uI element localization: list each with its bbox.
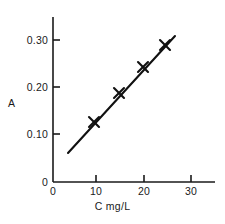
x-tick-label-30: 30 [181,185,201,197]
y-tick-label-020: 0.20 [8,81,48,93]
data-point-marker [160,40,170,50]
y-tick-label-010: 0.10 [8,128,48,140]
calibration-curve-chart: 0.30 0.20 0.10 0 0 10 20 30 A C mg/L [0,0,225,224]
y-axis-title: A [8,97,15,109]
y-tick-label-0: 0 [8,176,48,188]
x-tick-label-10: 10 [86,185,106,197]
y-tick-label-030: 0.30 [8,34,48,46]
x-tick-label-20: 20 [134,185,154,197]
x-axis-title: C mg/L [0,200,225,212]
x-tick-label-0: 0 [43,185,63,197]
